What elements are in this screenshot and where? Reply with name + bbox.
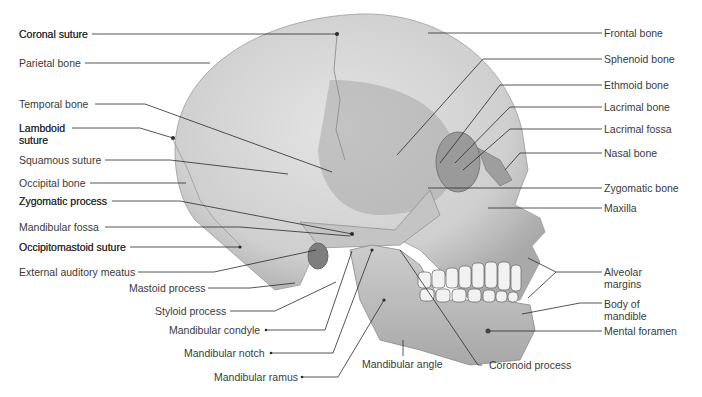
- leader-lambdoid-suture: [72, 128, 173, 138]
- label-occipital-bone: Occipital bone: [19, 177, 86, 189]
- label-lambdoid-suture: Lambdoid suture: [19, 122, 69, 146]
- label-mandibular-ramus: Mandibular ramus: [214, 371, 298, 383]
- orbit: [436, 132, 480, 192]
- label-sphenoid-bone: Sphenoid bone: [604, 53, 675, 65]
- label-coronal-suture: Coronal suture: [19, 28, 88, 40]
- label-zygomatic-bone: Zygomatic bone: [604, 182, 679, 194]
- label-body-of-mandible: Body of mandible: [604, 298, 664, 322]
- label-nasal-bone: Nasal bone: [604, 147, 657, 159]
- label-parietal-bone: Parietal bone: [19, 57, 81, 69]
- label-ethmoid-bone: Ethmoid bone: [604, 79, 669, 91]
- label-occipitomastoid-suture: Occipitomastoid suture: [19, 241, 126, 253]
- teeth: [418, 262, 521, 302]
- label-lacrimal-bone: Lacrimal bone: [604, 101, 670, 113]
- label-mental-foramen: Mental foramen: [604, 325, 677, 337]
- label-styloid-process: Styloid process: [155, 305, 226, 317]
- label-mandibular-condyle: Mandibular condyle: [169, 324, 260, 336]
- label-coronoid-process: Coronoid process: [489, 359, 571, 371]
- label-frontal-bone: Frontal bone: [604, 27, 663, 39]
- label-zygomatic-process: Zygomatic process: [19, 195, 107, 207]
- label-squamous-suture: Squamous suture: [19, 154, 101, 166]
- label-mandibular-notch: Mandibular notch: [184, 347, 265, 359]
- label-mandibular-fossa: Mandibular fossa: [19, 221, 99, 233]
- external-auditory-meatus-shape: [308, 243, 328, 269]
- mental-foramen-dot: [486, 329, 491, 334]
- label-maxilla: Maxilla: [604, 202, 637, 214]
- label-external-auditory-meatus: External auditory meatus: [19, 266, 135, 278]
- label-mastoid-process: Mastoid process: [129, 282, 205, 294]
- label-alveolar-margins: Alveolar margins: [604, 266, 664, 290]
- label-lacrimal-fossa: Lacrimal fossa: [604, 123, 672, 135]
- label-temporal-bone: Temporal bone: [19, 98, 88, 110]
- leader-body-of-mandible: [522, 303, 602, 314]
- skull-diagram: Coronal suture Parietal bone Temporal bo…: [0, 0, 702, 397]
- label-mandibular-angle: Mandibular angle: [362, 358, 443, 370]
